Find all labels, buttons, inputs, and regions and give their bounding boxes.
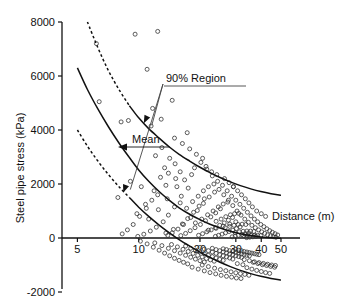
data-point bbox=[173, 136, 177, 140]
data-point bbox=[148, 229, 152, 233]
data-point bbox=[150, 198, 154, 202]
arrowhead-90-lower bbox=[123, 184, 129, 193]
data-point bbox=[126, 119, 130, 123]
data-point bbox=[170, 98, 174, 102]
data-point bbox=[166, 246, 170, 250]
data-point bbox=[191, 200, 195, 204]
data-point bbox=[183, 178, 187, 182]
y-axis-title: Steel pipe stress (kPa) bbox=[14, 113, 26, 224]
data-point bbox=[193, 166, 197, 170]
data-point bbox=[160, 146, 164, 150]
data-point bbox=[197, 204, 201, 208]
data-point bbox=[236, 189, 240, 193]
data-point bbox=[240, 193, 244, 197]
scatter-plot-canvas: -200002000400060008000 51020304050 Steel… bbox=[0, 0, 342, 308]
data-point bbox=[268, 271, 272, 275]
data-point bbox=[173, 256, 177, 260]
data-point bbox=[175, 185, 179, 189]
lower-90-bound-curve-dashed bbox=[77, 130, 129, 198]
data-point bbox=[206, 249, 210, 253]
data-point bbox=[190, 173, 194, 177]
data-point bbox=[243, 197, 247, 201]
data-point bbox=[221, 202, 225, 206]
data-point bbox=[202, 269, 206, 273]
data-point bbox=[241, 263, 245, 267]
data-point bbox=[264, 214, 268, 218]
data-point bbox=[201, 156, 205, 160]
data-point-markers bbox=[94, 29, 279, 280]
data-point bbox=[170, 243, 174, 247]
data-point bbox=[230, 275, 234, 279]
data-point bbox=[224, 269, 228, 273]
data-point bbox=[128, 179, 132, 183]
x-tick-label: 10 bbox=[133, 243, 145, 255]
data-point bbox=[184, 231, 188, 235]
data-point bbox=[152, 189, 156, 193]
data-point bbox=[173, 249, 177, 253]
data-point bbox=[168, 156, 172, 160]
data-point bbox=[182, 260, 186, 264]
y-axis-tick-labels: -200002000400060008000 bbox=[27, 16, 55, 298]
data-point bbox=[231, 204, 235, 208]
data-point bbox=[188, 229, 192, 233]
data-point bbox=[189, 255, 193, 259]
data-point bbox=[133, 32, 137, 36]
data-point bbox=[164, 183, 168, 187]
data-point bbox=[166, 213, 170, 217]
data-point bbox=[225, 189, 229, 193]
upper-90-bound-curve-dashed bbox=[87, 22, 129, 106]
data-point bbox=[201, 189, 205, 193]
data-point bbox=[177, 258, 181, 262]
data-point bbox=[217, 187, 221, 191]
data-point bbox=[154, 225, 158, 229]
y-tick-label: -2000 bbox=[27, 286, 55, 298]
data-point bbox=[257, 261, 261, 265]
data-point bbox=[201, 201, 205, 205]
data-point bbox=[178, 201, 182, 205]
data-point bbox=[231, 216, 235, 220]
data-point bbox=[153, 241, 157, 245]
data-point bbox=[242, 206, 246, 210]
data-point bbox=[131, 223, 135, 227]
data-point bbox=[185, 206, 189, 210]
data-point bbox=[142, 232, 146, 236]
data-point bbox=[229, 270, 233, 274]
data-point bbox=[219, 273, 223, 277]
annotation-label-90-region: 90% Region bbox=[166, 72, 226, 84]
data-point bbox=[197, 233, 201, 237]
data-point bbox=[199, 160, 203, 164]
x-tick-label: 50 bbox=[275, 243, 287, 255]
data-point bbox=[179, 234, 183, 238]
data-point bbox=[166, 171, 170, 175]
data-point bbox=[157, 248, 161, 252]
annotation-label-mean: Mean bbox=[132, 133, 160, 145]
data-point bbox=[238, 272, 242, 276]
data-point bbox=[259, 270, 263, 274]
data-point bbox=[156, 29, 160, 33]
y-tick-label: 6000 bbox=[31, 70, 55, 82]
data-point bbox=[192, 210, 196, 214]
data-point bbox=[249, 214, 253, 218]
data-point bbox=[185, 131, 189, 135]
data-point bbox=[225, 274, 229, 278]
data-point bbox=[144, 202, 148, 206]
data-point bbox=[156, 208, 160, 212]
data-point bbox=[145, 67, 149, 71]
data-point bbox=[144, 206, 148, 210]
data-point bbox=[160, 244, 164, 248]
data-point bbox=[190, 265, 194, 269]
data-point bbox=[245, 266, 249, 270]
data-point bbox=[228, 213, 232, 217]
data-point bbox=[178, 170, 182, 174]
data-point bbox=[246, 220, 250, 224]
data-point bbox=[163, 251, 167, 255]
data-point bbox=[194, 152, 198, 156]
data-point bbox=[259, 212, 263, 216]
mean-curve bbox=[77, 68, 281, 238]
data-point bbox=[209, 215, 213, 219]
data-point bbox=[213, 190, 217, 194]
data-point bbox=[151, 106, 155, 110]
data-point bbox=[138, 214, 142, 218]
data-point bbox=[255, 209, 259, 213]
y-tick-label: 0 bbox=[49, 232, 55, 244]
